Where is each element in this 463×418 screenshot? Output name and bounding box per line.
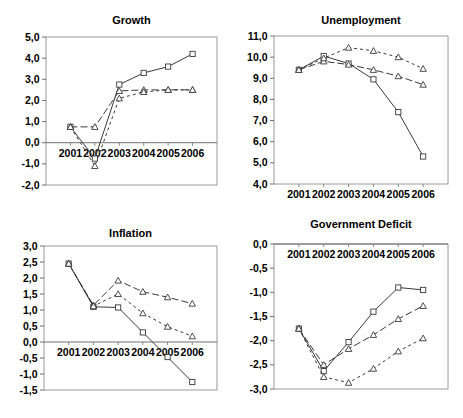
y-tick-label: 4,0 [253,178,268,190]
chart-growth: Growth-2,0-1,00,01,02,03,04,05,020012002… [0,0,232,209]
y-tick-label: 3,0 [25,73,40,85]
y-tick-label: 6,0 [253,135,268,147]
data-point-marker [189,333,195,339]
data-point-marker [165,354,170,359]
data-point-marker [189,300,195,306]
x-tick-label: 2001 [287,248,311,260]
y-tick-label: -2,5 [249,358,267,370]
x-tick-label: 2006 [411,188,435,200]
data-point-marker [345,346,351,352]
chart-unemployment: Unemployment4,05,06,07,08,09,010,011,020… [232,0,463,209]
panel-deficit: Government Deficit-3,0-2,5-2,0-1,5-1,0-0… [232,209,463,418]
y-tick-label: -1,0 [249,286,267,298]
series-line-series-2 [299,61,423,84]
y-tick-label: 2,0 [23,272,38,284]
panel-unemployment: Unemployment4,05,06,07,08,09,010,011,020… [232,0,463,209]
x-tick-label: 2003 [337,188,361,200]
data-point-marker [346,340,351,345]
y-tick-label: 0,0 [25,136,40,148]
panel-growth: Growth-2,0-1,00,01,02,03,04,05,020012002… [0,0,232,209]
y-tick-label: -1,5 [19,384,37,396]
y-tick-label: 3,0 [23,240,38,252]
chart-inflation: Inflation-1,5-1,0-0,50,00,51,01,52,02,53… [0,209,232,418]
chart-deficit: Government Deficit-3,0-2,5-2,0-1,5-1,0-0… [232,209,463,418]
y-tick-label: 0,0 [23,336,38,348]
y-tick-label: -2,0 [249,334,267,346]
y-tick-label: -0,5 [249,262,267,274]
y-tick-label: -1,0 [21,157,39,169]
data-point-marker [421,154,426,159]
x-tick-label: 2005 [387,188,411,200]
series-line-series-2 [70,90,192,127]
plot-frame [46,37,217,185]
y-tick-label: -1,5 [249,310,267,322]
series-line-series-1 [299,56,423,156]
y-tick-label: -3,0 [249,383,267,395]
data-point-marker [321,362,327,368]
x-tick-label: 2006 [411,248,435,260]
y-tick-label: -1,0 [19,368,37,380]
series-line-series-2 [69,264,193,306]
x-tick-label: 2001 [287,188,311,200]
data-point-marker [116,305,121,310]
data-point-marker [420,303,426,309]
chart-grid: Growth-2,0-1,00,01,02,03,04,05,020012002… [0,0,463,418]
x-tick-label: 2004 [362,188,386,200]
data-point-marker [396,285,401,290]
chart-title: Inflation [109,227,152,239]
series-line-series-3 [69,264,193,337]
panel-inflation: Inflation-1,5-1,0-0,50,00,51,01,52,02,53… [0,209,232,418]
data-point-marker [371,309,376,314]
y-tick-label: 8,0 [253,93,268,105]
x-tick-label: 2004 [362,248,386,260]
chart-title: Unemployment [321,14,401,26]
x-tick-label: 2005 [387,248,411,260]
x-tick-label: 2004 [131,346,155,358]
series-line-series-3 [299,48,423,70]
y-tick-label: 1,5 [23,288,38,300]
data-point-marker [345,380,351,386]
x-tick-label: 2006 [181,346,205,358]
data-point-marker [421,287,426,292]
x-tick-label: 2004 [132,147,156,159]
data-point-marker [370,366,376,372]
data-point-marker [190,51,195,56]
y-tick-label: 0,0 [253,238,268,250]
data-point-marker [140,330,145,335]
y-tick-label: 7,0 [253,114,268,126]
x-tick-label: 2002 [312,248,336,260]
y-tick-label: 0,5 [23,320,38,332]
data-point-marker [115,291,121,297]
y-tick-label: 11,0 [248,30,268,42]
y-tick-label: 1,0 [23,304,38,316]
data-point-marker [141,70,146,75]
data-point-marker [370,332,376,338]
y-tick-label: 5,0 [25,31,40,43]
data-point-marker [117,82,122,87]
data-point-marker [395,348,401,354]
y-tick-label: 2,5 [23,256,38,268]
data-point-marker [420,335,426,341]
y-tick-label: -0,5 [19,352,37,364]
x-tick-label: 2003 [337,248,361,260]
y-tick-label: 2,0 [25,94,40,106]
y-tick-label: 5,0 [253,156,268,168]
data-point-marker [92,156,97,161]
data-point-marker [395,316,401,322]
x-tick-label: 2006 [181,147,205,159]
data-point-marker [371,77,376,82]
x-tick-label: 2002 [312,188,336,200]
x-tick-label: 2002 [82,346,106,358]
plot-frame [274,244,448,389]
y-tick-label: -2,0 [21,179,39,191]
y-tick-label: 1,0 [25,115,40,127]
data-point-marker [166,64,171,69]
series-line-series-2 [299,306,423,365]
series-line-series-1 [69,264,193,382]
data-point-marker [345,44,351,50]
data-point-marker [115,277,121,283]
chart-title: Growth [112,14,151,26]
data-point-marker [140,289,146,295]
data-point-marker [370,48,376,54]
x-tick-label: 2003 [106,346,130,358]
